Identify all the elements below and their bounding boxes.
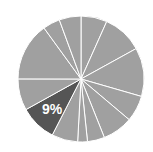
pie-slices bbox=[18, 16, 144, 142]
pie-chart: 9% bbox=[0, 0, 153, 152]
pie-labels: 9% bbox=[42, 101, 63, 117]
pie-chart-svg: 9% bbox=[0, 0, 153, 152]
slice-percent-label: 9% bbox=[42, 101, 63, 117]
